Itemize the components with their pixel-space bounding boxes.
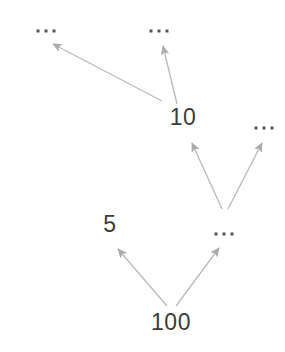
ellipsis-dot-icon — [166, 30, 169, 33]
graph-node-n2[interactable] — [150, 30, 169, 33]
graph-edge-n7-to-n6 — [176, 248, 219, 306]
edge-layer — [0, 0, 285, 352]
edge-group — [53, 44, 262, 306]
ellipsis-dot-icon — [231, 233, 234, 236]
graph-edge-n3-to-n1 — [53, 44, 162, 101]
ellipsis-dot-icon — [37, 30, 40, 33]
graph-node-n3[interactable]: 10 — [170, 106, 197, 129]
ellipsis-dot-icon — [45, 30, 48, 33]
ellipsis-dot-icon — [53, 30, 56, 33]
graph-edge-n3-to-n2 — [163, 46, 177, 104]
graph-node-n5[interactable]: 5 — [103, 213, 116, 236]
graph-node-n1[interactable] — [37, 30, 56, 33]
ellipsis-dot-icon — [271, 127, 274, 130]
ellipsis-dot-icon — [150, 30, 153, 33]
ellipsis-dot-icon — [223, 233, 226, 236]
ellipsis-dot-icon — [255, 127, 258, 130]
graph-node-n7[interactable]: 100 — [151, 311, 191, 334]
ellipsis-dot-icon — [263, 127, 266, 130]
graph-node-n4[interactable] — [255, 127, 274, 130]
graph-edge-n6-to-n3 — [192, 143, 222, 209]
graph-node-n6[interactable] — [215, 233, 234, 236]
ellipsis-dot-icon — [158, 30, 161, 33]
graph-edge-n6-to-n4 — [228, 143, 262, 209]
graph-edge-n7-to-n5 — [118, 249, 167, 306]
graph-canvas: 105100 — [0, 0, 285, 352]
ellipsis-dot-icon — [215, 233, 218, 236]
